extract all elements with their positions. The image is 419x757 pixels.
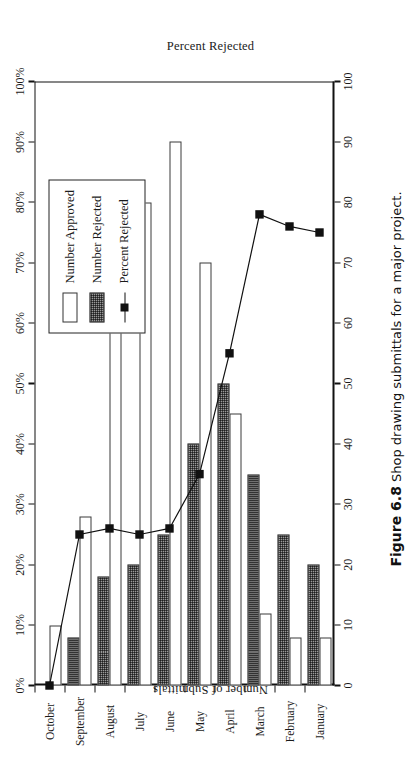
right-axis-tick-mark bbox=[28, 80, 34, 81]
category-label: September bbox=[73, 676, 85, 757]
right-axis-tick-mark bbox=[28, 322, 34, 323]
category-label: February bbox=[283, 676, 295, 757]
left-axis-tick-mark bbox=[334, 80, 340, 81]
plot-area: 0102030405060708090100 0%10%20%30%40%50%… bbox=[34, 81, 334, 685]
right-axis-tick-mark bbox=[28, 262, 34, 263]
left-axis-tick-mark bbox=[334, 684, 340, 685]
left-axis-tick-mark bbox=[334, 564, 340, 565]
percent-rejected-marker bbox=[45, 681, 53, 689]
category-label: July bbox=[133, 676, 145, 757]
left-axis-tick-mark bbox=[334, 443, 340, 444]
right-axis-tick-mark bbox=[28, 382, 34, 383]
figure-caption-text: Shop drawing submittals for a major proj… bbox=[389, 191, 404, 482]
category-tick-mark bbox=[304, 685, 305, 692]
category-tick-mark bbox=[64, 685, 65, 692]
left-axis-tick-mark bbox=[334, 382, 340, 383]
right-axis-tick-label: 60% bbox=[12, 312, 27, 334]
category-label: April bbox=[223, 676, 235, 757]
category-label: June bbox=[163, 676, 175, 757]
percent-rejected-marker bbox=[105, 524, 113, 532]
category-label: August bbox=[103, 676, 115, 757]
category-label: January bbox=[313, 676, 325, 757]
percent-rejected-marker bbox=[315, 228, 323, 236]
right-axis-tick-label: 70% bbox=[12, 251, 27, 273]
left-axis-tick-mark bbox=[334, 624, 340, 625]
right-axis-tick-label: 50% bbox=[12, 372, 27, 394]
left-axis-tick-label: 20 bbox=[340, 558, 355, 570]
chart-figure: Number of Submittals Percent Rejected 01… bbox=[0, 0, 419, 757]
figure-caption: Figure 6.8 Shop drawing submittals for a… bbox=[379, 0, 413, 757]
percent-rejected-marker bbox=[75, 530, 83, 538]
legend-item: Number Rejected bbox=[83, 190, 110, 322]
category-tick-mark bbox=[244, 685, 245, 692]
left-axis-tick-label: 40 bbox=[340, 437, 355, 449]
legend-item-label: Number Rejected bbox=[89, 195, 104, 283]
legend-item-label: Number Approved bbox=[62, 190, 77, 283]
right-axis-tick-label: 80% bbox=[12, 191, 27, 213]
figure-number: Figure 6.8 bbox=[388, 486, 404, 566]
category-tick-mark bbox=[94, 685, 95, 692]
category-label: May bbox=[193, 676, 205, 757]
left-axis-tick-label: 50 bbox=[340, 377, 355, 389]
right-axis-tick-label: 10% bbox=[12, 614, 27, 636]
category-tick-mark bbox=[34, 685, 35, 692]
left-axis-tick-label: 90 bbox=[340, 135, 355, 147]
right-axis-tick-mark bbox=[28, 443, 34, 444]
percent-rejected-marker bbox=[195, 469, 203, 477]
left-axis-tick-mark bbox=[334, 141, 340, 142]
left-axis-tick-label: 60 bbox=[340, 317, 355, 329]
right-axis-tick-label: 30% bbox=[12, 493, 27, 515]
percent-rejected-line bbox=[34, 81, 334, 685]
left-axis-tick-label: 80 bbox=[340, 196, 355, 208]
right-axis-tick-mark bbox=[28, 564, 34, 565]
left-axis-tick-label: 70 bbox=[340, 256, 355, 268]
figure-page: Number of Submittals Percent Rejected 01… bbox=[0, 0, 419, 757]
left-axis-tick-label: 0 bbox=[340, 682, 355, 688]
left-axis-tick-mark bbox=[334, 322, 340, 323]
right-axis-tick-mark bbox=[28, 141, 34, 142]
right-axis-tick-label: 0% bbox=[12, 677, 27, 693]
right-axis-tick-label: 100% bbox=[12, 67, 27, 95]
legend-item-label: Percent Rejected bbox=[116, 199, 131, 283]
right-axis-tick-mark bbox=[28, 684, 34, 685]
right-axis-tick-label: 40% bbox=[12, 432, 27, 454]
left-axis-tick-label: 10 bbox=[340, 619, 355, 631]
percent-rejected-marker bbox=[255, 210, 263, 218]
legend-item: Number Approved bbox=[56, 190, 83, 322]
left-axis-tick-label: 30 bbox=[340, 498, 355, 510]
percent-rejected-marker bbox=[225, 349, 233, 357]
left-axis-tick-label: 100 bbox=[340, 72, 355, 90]
category-tick-mark bbox=[124, 685, 125, 692]
legend-rejected-swatch-icon bbox=[89, 292, 104, 322]
percent-rejected-marker bbox=[135, 530, 143, 538]
category-tick-mark bbox=[274, 685, 275, 692]
category-tick-mark bbox=[214, 685, 215, 692]
left-axis-tick-mark bbox=[334, 503, 340, 504]
percent-rejected-marker bbox=[285, 222, 293, 230]
legend-line-marker-icon bbox=[116, 292, 131, 322]
category-tick-mark bbox=[184, 685, 185, 692]
left-axis-tick-mark bbox=[334, 201, 340, 202]
right-axis-tick-mark bbox=[28, 503, 34, 504]
right-axis-tick-mark bbox=[28, 201, 34, 202]
legend-item: Percent Rejected bbox=[110, 190, 137, 322]
percent-rejected-marker bbox=[165, 524, 173, 532]
chart-legend: Number ApprovedNumber RejectedPercent Re… bbox=[48, 179, 145, 333]
category-tick-mark bbox=[154, 685, 155, 692]
rotated-figure-wrapper: Number of Submittals Percent Rejected 01… bbox=[0, 0, 419, 757]
left-axis-tick-mark bbox=[334, 262, 340, 263]
right-axis-title: Percent Rejected bbox=[166, 38, 254, 53]
right-axis-tick-label: 20% bbox=[12, 553, 27, 575]
right-axis-tick-label: 90% bbox=[12, 130, 27, 152]
right-axis-tick-mark bbox=[28, 624, 34, 625]
category-label: March bbox=[253, 676, 265, 757]
legend-approved-swatch-icon bbox=[62, 292, 77, 322]
